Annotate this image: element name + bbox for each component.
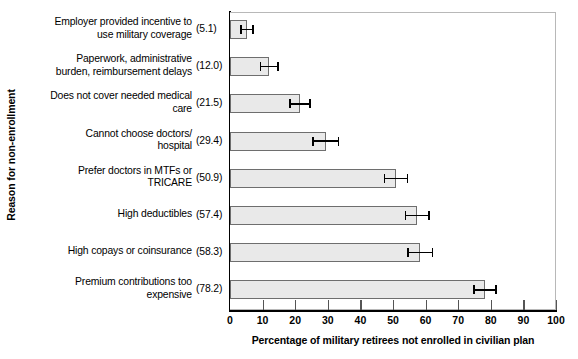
error-bar-cap-high [432, 248, 434, 257]
x-tick-mark [393, 300, 394, 310]
error-bar-line [385, 178, 408, 180]
category-label: Premium contributions too expensive [75, 276, 196, 301]
x-tick-mark [295, 300, 296, 310]
error-bar-cap-low [473, 285, 475, 294]
error-bar-cap-low [240, 25, 242, 34]
error-bar-cap-high [277, 62, 279, 71]
x-tick-mark [263, 300, 264, 310]
error-bar-line [241, 29, 253, 31]
error-bar-cap-low [260, 62, 262, 71]
bar [230, 243, 420, 262]
bar [230, 206, 417, 225]
category-label-row: Employer provided incentive to use milit… [22, 10, 230, 47]
category-label-row: High copays or coinsurance(58.3) [22, 233, 230, 270]
x-tick-mark [491, 300, 492, 310]
bar-chart: Reason for non-enrollment Employer provi… [0, 0, 578, 359]
bar [230, 280, 485, 299]
error-bar-line [313, 140, 338, 142]
plot-area [230, 12, 556, 310]
error-bar-cap-low [384, 174, 386, 183]
bar [230, 169, 396, 188]
x-tick-mark [360, 300, 361, 310]
error-bar-cap-high [309, 99, 311, 108]
category-value-label: (29.4) [196, 135, 230, 146]
category-label: Does not cover needed medical care [50, 90, 196, 115]
category-label: High copays or coinsurance [68, 245, 196, 257]
error-bar-cap-low [289, 99, 291, 108]
error-bar-cap-high [407, 174, 409, 183]
category-label-row: Does not cover needed medical care(21.5) [22, 84, 230, 121]
error-bar-line [405, 215, 428, 217]
category-value-label: (12.0) [196, 60, 230, 71]
category-label-column: Employer provided incentive to use milit… [22, 12, 230, 310]
error-bar-cap-low [407, 248, 409, 257]
category-value-label: (78.2) [196, 283, 230, 294]
x-tick-label: 100 [536, 314, 576, 326]
error-bar-line [260, 66, 278, 68]
error-bar-line [408, 252, 432, 254]
x-tick-mark [458, 300, 459, 310]
category-label-row: Cannot choose doctors/ hospital(29.4) [22, 122, 230, 159]
x-axis-title: Percentage of military retirees not enro… [230, 334, 556, 346]
category-label: Prefer doctors in MTFs or TRICARE [78, 165, 196, 190]
category-label-row: Paperwork, administrative burden, reimbu… [22, 47, 230, 84]
error-bar-cap-high [338, 137, 340, 146]
category-label-row: Premium contributions too expensive(78.2… [22, 270, 230, 307]
category-label: Employer provided incentive to use milit… [54, 16, 196, 41]
category-label: Cannot choose doctors/ hospital [86, 128, 196, 153]
error-bar-cap-low [312, 137, 314, 146]
y-axis-title-text: Reason for non-enrollment [5, 89, 17, 221]
error-bar-cap-low [405, 211, 407, 220]
x-tick-mark [426, 300, 427, 310]
x-axis-line [229, 310, 557, 312]
category-value-label: (50.9) [196, 172, 230, 183]
category-label-row: Prefer doctors in MTFs or TRICARE(50.9) [22, 159, 230, 196]
error-bar-cap-high [252, 25, 254, 34]
category-label-row: High deductibles(57.4) [22, 196, 230, 233]
error-bar-line [474, 289, 496, 291]
error-bar-cap-high [495, 285, 497, 294]
x-tick-mark [328, 300, 329, 310]
error-bar-line [290, 103, 310, 105]
y-axis-title: Reason for non-enrollment [0, 0, 22, 310]
category-label: High deductibles [118, 208, 196, 220]
x-tick-mark [523, 300, 524, 310]
category-value-label: (57.4) [196, 209, 230, 220]
x-tick-mark [556, 300, 557, 310]
category-value-label: (5.1) [196, 23, 230, 34]
error-bar-cap-high [428, 211, 430, 220]
category-label: Paperwork, administrative burden, reimbu… [56, 53, 196, 78]
category-value-label: (21.5) [196, 97, 230, 108]
category-value-label: (58.3) [196, 246, 230, 257]
